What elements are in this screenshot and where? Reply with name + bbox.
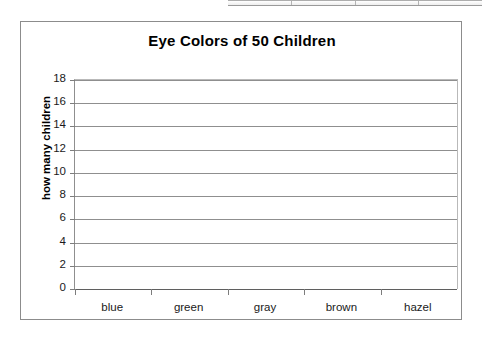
chart-title: Eye Colors of 50 Children bbox=[21, 32, 463, 49]
partial-table-top bbox=[228, 0, 482, 6]
y-axis-label-4: 4 bbox=[32, 236, 66, 248]
y-axis-label-2: 2 bbox=[32, 259, 66, 271]
y-axis-label-0: 0 bbox=[32, 282, 66, 294]
y-axis-label-14: 14 bbox=[32, 119, 66, 131]
plot-area bbox=[74, 79, 458, 289]
gridline-16 bbox=[75, 103, 457, 104]
table-cell bbox=[356, 1, 420, 5]
y-axis-label-8: 8 bbox=[32, 189, 66, 201]
x-axis-label-blue: blue bbox=[74, 302, 150, 314]
gridline-8 bbox=[75, 196, 457, 197]
gridline-0 bbox=[75, 289, 457, 290]
y-axis-label-18: 18 bbox=[32, 73, 66, 85]
y-tick-18 bbox=[70, 80, 75, 81]
gridline-6 bbox=[75, 219, 457, 220]
x-axis-label-hazel: hazel bbox=[380, 302, 456, 314]
gridline-12 bbox=[75, 150, 457, 151]
x-tick-0 bbox=[75, 289, 76, 295]
gridline-10 bbox=[75, 173, 457, 174]
x-axis-label-gray: gray bbox=[227, 302, 303, 314]
x-tick-2 bbox=[228, 289, 229, 295]
y-tick-16 bbox=[70, 103, 75, 104]
y-axis-label-6: 6 bbox=[32, 212, 66, 224]
x-tick-4 bbox=[381, 289, 382, 295]
gridline-18 bbox=[75, 80, 457, 81]
y-tick-10 bbox=[70, 173, 75, 174]
gridline-4 bbox=[75, 243, 457, 244]
y-tick-4 bbox=[70, 243, 75, 244]
x-tick-3 bbox=[304, 289, 305, 295]
table-cell bbox=[228, 1, 292, 5]
y-axis-label-16: 16 bbox=[32, 96, 66, 108]
y-tick-12 bbox=[70, 150, 75, 151]
y-tick-14 bbox=[70, 126, 75, 127]
x-axis-label-green: green bbox=[150, 302, 226, 314]
y-tick-8 bbox=[70, 196, 75, 197]
y-tick-0 bbox=[70, 289, 75, 290]
gridline-2 bbox=[75, 266, 457, 267]
x-axis-label-brown: brown bbox=[303, 302, 379, 314]
x-tick-1 bbox=[151, 289, 152, 295]
y-tick-2 bbox=[70, 266, 75, 267]
y-axis-label-10: 10 bbox=[32, 166, 66, 178]
chart-container: Eye Colors of 50 Children how many child… bbox=[20, 21, 462, 320]
y-axis-label-12: 12 bbox=[32, 143, 66, 155]
gridline-14 bbox=[75, 126, 457, 127]
table-cell bbox=[419, 1, 482, 5]
table-cell bbox=[292, 1, 356, 5]
y-tick-6 bbox=[70, 219, 75, 220]
